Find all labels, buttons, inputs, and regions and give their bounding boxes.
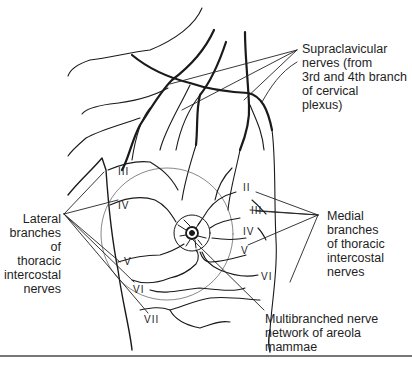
numeral-medial-iv: IV xyxy=(243,226,254,237)
numeral-medial-iii: III xyxy=(251,205,262,216)
bottom-rule xyxy=(0,355,412,357)
numeral-lateral-vii: VII xyxy=(144,314,159,325)
numeral-lateral-iv: IV xyxy=(118,200,129,211)
leader-lines xyxy=(64,50,318,313)
lateral-branches xyxy=(108,162,260,328)
breast-innervation-diagram: III IV V VI VII II III IV V VI Supraclav… xyxy=(0,0,412,365)
numeral-medial-v: V xyxy=(241,245,249,256)
numeral-medial-vi: VI xyxy=(261,271,272,282)
numeral-lateral-v: V xyxy=(124,256,132,267)
label-lateral-branches: Lateral branches of thoracic intercostal… xyxy=(0,212,61,296)
label-medial-branches: Medial branches of thoracic intercostal … xyxy=(327,209,412,279)
areola xyxy=(174,215,210,251)
numeral-lateral-iii: III xyxy=(118,166,129,177)
breast-contour xyxy=(101,168,233,300)
label-areola-nerve-network: Multibranched nerve network of areola ma… xyxy=(265,312,378,354)
numeral-medial-ii: II xyxy=(243,182,251,193)
label-supraclavicular-nerves: Supraclavicular nerves (from 3rd and 4th… xyxy=(302,42,407,112)
numeral-lateral-vi: VI xyxy=(133,284,144,295)
